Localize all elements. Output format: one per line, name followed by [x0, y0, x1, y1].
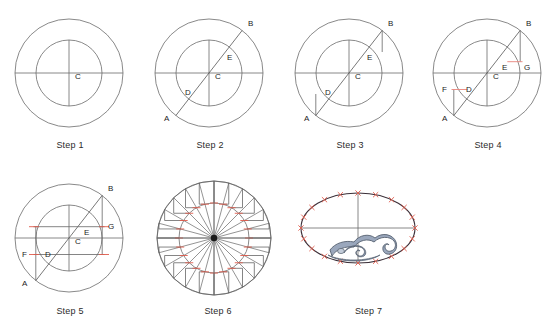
point-label-d: D: [466, 85, 472, 94]
point-label-d: D: [325, 88, 331, 97]
spoke-5: [214, 223, 269, 238]
chord-3: [254, 198, 263, 210]
step-3-diagram: C A B D E: [280, 0, 420, 135]
step-6-cell: Step 6: [148, 170, 288, 326]
step-6-diagram: [148, 170, 288, 300]
point-label-c: C: [493, 72, 499, 81]
step-5-diagram: C A B D E F G: [0, 170, 140, 300]
step-1-cell: C Step 1: [0, 0, 140, 165]
ellipse-marker-18: [402, 205, 407, 210]
step-4-cell: C A B D E F G Step 4: [418, 0, 558, 165]
step-4-caption: Step 4: [418, 140, 558, 150]
ellipse-marker-12: [309, 205, 314, 210]
point-label-e: E: [367, 53, 372, 62]
ellipse-marker-1: [410, 236, 415, 241]
ellipse-marker-11: [301, 215, 306, 220]
point-label-d: D: [185, 88, 191, 97]
step-1-diagram: C: [0, 0, 140, 135]
point-label-g: G: [108, 222, 114, 231]
point-label-a: A: [304, 114, 310, 123]
spoke-11: [214, 238, 229, 293]
step-1-caption: Step 1: [0, 140, 140, 150]
ellipse-marker-2: [402, 246, 407, 251]
spoke-7: [214, 238, 269, 253]
chord-20: [165, 198, 174, 210]
point-label-a: A: [442, 114, 448, 123]
spoke-13: [199, 238, 214, 293]
point-label-b: B: [248, 19, 253, 28]
point-label-f: F: [22, 250, 27, 259]
spoke-23: [199, 183, 214, 238]
chord-1: [229, 183, 243, 189]
point-label-d: D: [45, 250, 51, 259]
chord-15: [165, 267, 174, 279]
chord-19: [159, 210, 165, 224]
construction-steps-figure: C Step 1 C A B D E Step 2 C: [0, 0, 558, 326]
chord-2: [243, 189, 255, 198]
ellipse-marker-17: [389, 197, 394, 202]
chord-21: [174, 189, 186, 198]
chord-9: [243, 278, 255, 287]
chord-13: [186, 287, 200, 293]
point-label-b: B: [388, 19, 393, 28]
chord-10: [229, 287, 243, 293]
point-label-e: E: [502, 63, 507, 72]
point-label-e: E: [227, 53, 232, 62]
spoke-17: [159, 238, 214, 253]
step-4-diagram: C A B D E F G: [418, 0, 558, 135]
point-label-b: B: [526, 19, 531, 28]
ellipse-marker-13: [322, 197, 327, 202]
step-7-diagram: [296, 170, 441, 300]
point-label-e: E: [84, 228, 89, 237]
center-hub: [211, 235, 217, 241]
point-label-c: C: [355, 72, 361, 81]
chord-16: [159, 253, 165, 267]
step-2-cell: C A B D E Step 2: [140, 0, 280, 165]
ellipse-marker-9: [301, 236, 306, 241]
step-5-caption: Step 5: [0, 306, 140, 316]
scroll-eye: [338, 248, 345, 253]
spoke-1: [214, 183, 229, 238]
step-6-caption: Step 6: [148, 306, 288, 316]
chord-4: [263, 210, 269, 224]
decorative-scroll-ornament: [328, 235, 397, 261]
point-label-g: G: [524, 63, 530, 72]
point-label-c: C: [75, 72, 81, 81]
chord-22: [186, 183, 200, 189]
step-5-cell: C A B D E F G Step 5: [0, 170, 140, 326]
point-label-a: A: [164, 114, 170, 123]
point-label-f: F: [442, 85, 447, 94]
step-2-diagram: C A B D E: [140, 0, 280, 135]
chord-7: [263, 253, 269, 267]
point-label-c: C: [215, 72, 221, 81]
step-3-caption: Step 3: [280, 140, 420, 150]
ellipse-marker-7: [322, 254, 327, 259]
step-2-caption: Step 2: [140, 140, 280, 150]
chord-8: [254, 267, 263, 279]
spoke-19: [159, 223, 214, 238]
ellipse-marker-8: [309, 246, 314, 251]
step-7-caption: Step 7: [296, 306, 441, 316]
ellipse-marker-19: [410, 215, 415, 220]
chord-14: [174, 278, 186, 287]
point-label-a: A: [22, 279, 28, 288]
step-3-cell: C A B D E Step 3: [280, 0, 420, 165]
point-label-b: B: [108, 184, 113, 193]
step-7-cell: Step 7: [296, 170, 441, 326]
point-label-c: C: [75, 237, 81, 246]
